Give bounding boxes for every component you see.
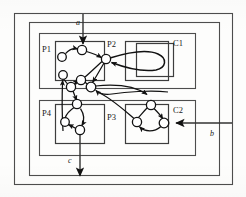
label-p3: P3 — [107, 112, 116, 122]
place-p4-left[interactable] — [61, 118, 70, 127]
place-p4-top[interactable] — [72, 99, 81, 108]
arc-p1left-to-p1top — [66, 49, 78, 54]
arc-p4top-to-p4left — [65, 108, 74, 118]
arc-p3top-to-p3left — [138, 108, 148, 119]
container-outer — [15, 14, 233, 185]
arc-p2-to-midright — [93, 63, 104, 82]
label-p1: P1 — [42, 44, 51, 54]
place-mid-up[interactable] — [76, 75, 85, 84]
place-p3-right[interactable] — [159, 118, 169, 128]
container-boxes — [15, 14, 233, 185]
container-system — [30, 23, 220, 176]
label-c1: C1 — [173, 38, 183, 48]
diagram-canvas: C1 C2 P1 P2 P3 P4 a b c — [0, 0, 246, 197]
arc-p3top-to-p3right — [154, 109, 163, 119]
label-p2: P2 — [107, 39, 116, 49]
label-port-b: b — [210, 129, 214, 138]
arcs-p3 — [138, 108, 163, 131]
place-p1-top[interactable] — [77, 45, 86, 54]
place-p2-main[interactable] — [101, 54, 110, 63]
label-port-c: c — [68, 156, 72, 165]
petri-net-diagram: C1 C2 P1 P2 P3 P4 a b c — [0, 0, 246, 197]
label-p4: P4 — [42, 108, 52, 118]
arc-c2-return-to-midright — [96, 90, 168, 94]
label-c2: C2 — [173, 105, 183, 115]
place-p1-left[interactable] — [58, 53, 67, 62]
place-p4-bot[interactable] — [75, 125, 84, 134]
place-mid-right[interactable] — [86, 82, 96, 92]
arc-p2-self-loop — [110, 51, 165, 70]
place-p1-lower[interactable] — [59, 71, 68, 80]
place-mid-left[interactable] — [66, 82, 75, 91]
label-port-a: a — [76, 18, 80, 27]
arc-p4bot-to-p4left — [68, 125, 76, 129]
place-p3-top[interactable] — [146, 100, 155, 109]
process-box-p2[interactable] — [126, 42, 169, 81]
p2-self-loop-group — [110, 44, 174, 77]
arc-midup-to-p2 — [85, 62, 102, 78]
arc-p3right-to-p3left — [140, 127, 162, 131]
arc-p4top-to-p4bot — [81, 109, 84, 126]
arc-p1top-to-p2 — [87, 52, 102, 58]
place-p3-left[interactable] — [132, 117, 141, 126]
